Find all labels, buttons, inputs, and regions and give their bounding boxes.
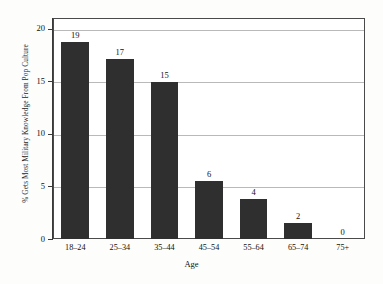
x-tick-label: 55–64: [243, 243, 263, 252]
x-tick-label: 18–24: [65, 243, 85, 252]
x-tick-label: 35–44: [154, 243, 174, 252]
bars-layer: [53, 18, 365, 239]
bar: [284, 223, 312, 239]
y-tick-label: 20: [25, 23, 45, 33]
y-tick-label: 5: [25, 181, 45, 191]
y-axis-line: [52, 18, 53, 239]
x-axis-title: Age: [0, 259, 383, 269]
bar: [61, 42, 89, 239]
y-tick-label: 0: [25, 234, 45, 244]
y-tick-mark: [48, 239, 53, 240]
y-tick-label: 10: [25, 128, 45, 138]
x-tick-label: 25–34: [110, 243, 130, 252]
bar: [195, 181, 223, 239]
bar: [106, 59, 134, 239]
x-tick-label: 65–74: [288, 243, 308, 252]
bar: [240, 199, 268, 239]
bar: [151, 82, 179, 239]
x-tick-label: 45–54: [199, 243, 219, 252]
y-axis-title-text: % Gets Most Military Knowledge From Pop …: [21, 44, 30, 203]
x-tick-label: 75+: [336, 243, 349, 252]
y-tick-label: 15: [25, 76, 45, 86]
y-axis-title: % Gets Most Military Knowledge From Pop …: [18, 0, 32, 246]
bar-chart: % Gets Most Military Knowledge From Pop …: [0, 0, 383, 284]
